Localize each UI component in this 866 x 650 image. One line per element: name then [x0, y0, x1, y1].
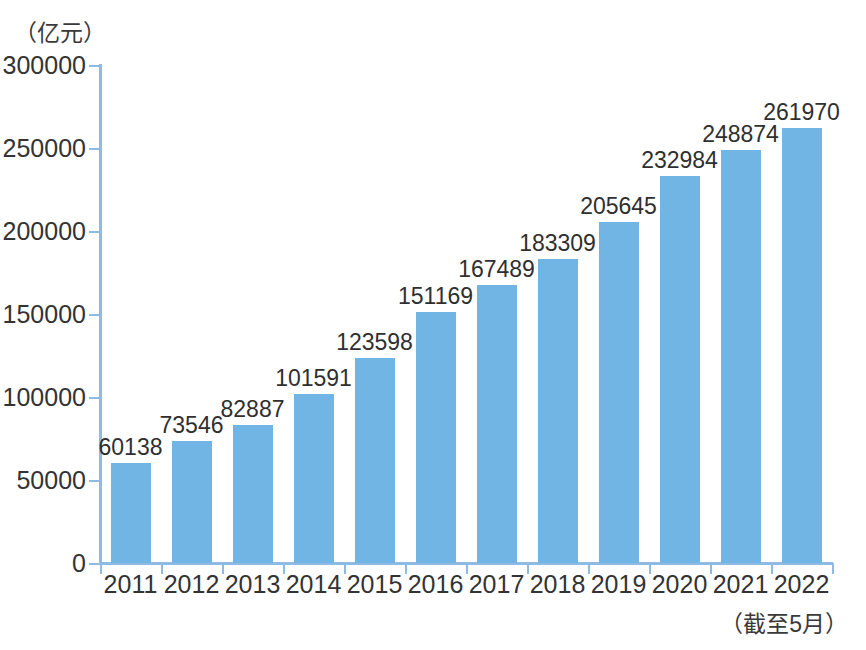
chart-footnote: （截至5月）: [720, 605, 848, 639]
x-axis-tick-mark: [161, 563, 163, 574]
y-axis-unit-label: （亿元）: [14, 14, 106, 48]
x-axis-tick-mark: [466, 563, 468, 574]
chart-page: （亿元） 05000010000015000020000025000030000…: [0, 0, 866, 650]
bar-group[interactable]: 2619702022: [771, 65, 832, 563]
y-axis-tick-label: 200000: [3, 219, 86, 244]
plot-area: 050000100000150000200000250000300000 601…: [100, 65, 832, 563]
bar-value-label: 248874: [702, 123, 779, 146]
x-axis-category-label: 2018: [530, 572, 586, 597]
y-axis-tick-mark: [89, 480, 100, 482]
bar[interactable]: 248874: [721, 150, 761, 563]
bar-group[interactable]: 1015912014: [283, 65, 344, 563]
bar-value-label: 73546: [160, 414, 224, 437]
x-axis-tick-mark: [100, 563, 102, 574]
bar[interactable]: 167489: [477, 285, 517, 563]
bar-value-label: 183309: [519, 232, 596, 255]
bar-group[interactable]: 2056452019: [588, 65, 649, 563]
x-axis-tick-mark: [649, 563, 651, 574]
bar-group[interactable]: 1511692016: [405, 65, 466, 563]
bar[interactable]: 205645: [599, 222, 639, 563]
x-axis-category-label: 2021: [713, 572, 769, 597]
y-axis-tick-mark: [89, 397, 100, 399]
x-axis-category-label: 2013: [225, 572, 281, 597]
bar-value-label: 167489: [458, 258, 535, 281]
bar-value-label: 261970: [763, 101, 840, 124]
y-axis-tick-mark: [89, 231, 100, 233]
bar[interactable]: 82887: [233, 425, 273, 563]
bar-value-label: 205645: [580, 195, 657, 218]
bar-value-label: 60138: [99, 436, 163, 459]
x-axis-category-label: 2014: [286, 572, 342, 597]
x-axis-tick-mark: [527, 563, 529, 574]
x-axis-category-label: 2011: [104, 572, 158, 597]
y-axis-tick-label: 100000: [3, 385, 86, 410]
bar-group[interactable]: 2488742021: [710, 65, 771, 563]
bar-group[interactable]: 828872013: [222, 65, 283, 563]
x-axis-category-label: 2019: [591, 572, 647, 597]
x-axis-tick-mark: [344, 563, 346, 574]
bar[interactable]: 101591: [294, 394, 334, 563]
bar[interactable]: 261970: [782, 128, 822, 563]
x-axis-tick-mark: [405, 563, 407, 574]
bar-group[interactable]: 1833092018: [527, 65, 588, 563]
bar[interactable]: 183309: [538, 259, 578, 563]
y-axis-tick-label: 150000: [3, 302, 86, 327]
x-axis-tick-mark: [832, 563, 834, 574]
y-axis-tick-label: 0: [72, 551, 86, 576]
bar-group[interactable]: 2329842020: [649, 65, 710, 563]
x-axis-category-label: 2020: [652, 572, 708, 597]
x-axis-category-label: 2022: [774, 572, 830, 597]
bar-group[interactable]: 1674892017: [466, 65, 527, 563]
y-axis-tick-label: 250000: [3, 136, 86, 161]
bar-value-label: 232984: [641, 149, 718, 172]
x-axis-tick-mark: [771, 563, 773, 574]
x-axis-tick-mark: [588, 563, 590, 574]
y-axis-tick-mark: [89, 148, 100, 150]
x-axis-category-label: 2015: [347, 572, 403, 597]
y-axis-tick-mark: [89, 314, 100, 316]
x-axis-tick-mark: [710, 563, 712, 574]
x-axis-category-label: 2017: [469, 572, 525, 597]
y-axis-tick-label: 300000: [3, 53, 86, 78]
x-axis-category-label: 2016: [408, 572, 464, 597]
bar[interactable]: 232984: [660, 176, 700, 563]
bar[interactable]: 151169: [416, 312, 456, 563]
bar-value-label: 123598: [336, 331, 413, 354]
x-axis-category-label: 2012: [164, 572, 220, 597]
bar[interactable]: 73546: [172, 441, 212, 563]
bar-value-label: 101591: [275, 367, 352, 390]
bar-value-label: 82887: [221, 398, 285, 421]
x-axis-tick-mark: [283, 563, 285, 574]
bar[interactable]: 123598: [355, 358, 395, 563]
bar-group[interactable]: 1235982015: [344, 65, 405, 563]
y-axis-tick-mark: [89, 65, 100, 67]
y-axis-tick-label: 50000: [16, 468, 86, 493]
bar[interactable]: 60138: [111, 463, 151, 563]
bar-group[interactable]: 735462012: [161, 65, 222, 563]
y-axis-tick-mark: [89, 563, 100, 565]
bar-value-label: 151169: [398, 285, 473, 308]
bar-group[interactable]: 601382011: [100, 65, 161, 563]
x-axis-tick-mark: [222, 563, 224, 574]
